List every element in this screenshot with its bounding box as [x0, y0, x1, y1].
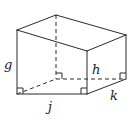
label-g: g	[4, 57, 12, 72]
edge-top-front	[17, 30, 87, 51]
label-h: h	[92, 62, 100, 77]
label-k: k	[110, 88, 118, 103]
visible-edges	[17, 15, 126, 94]
right-angle-marker-front-right	[81, 88, 87, 94]
right-angle-marker-back-left	[56, 73, 62, 79]
label-j: j	[45, 99, 52, 114]
edge-top-back	[56, 15, 126, 35]
right-angle-marker-back-right	[120, 73, 126, 79]
edge-top-left-depth	[17, 15, 56, 30]
rectangular-prism-diagram: g h j k	[0, 0, 134, 120]
edge-top-right-depth	[87, 35, 126, 51]
hidden-edges	[17, 15, 126, 94]
edge-k-bottom-right-depth	[87, 79, 126, 94]
